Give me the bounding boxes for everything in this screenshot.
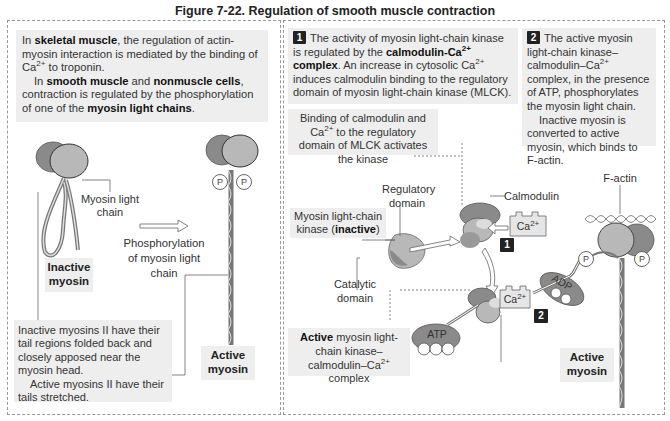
phosphate-icon: P xyxy=(212,174,228,190)
calcium-label-bottom: Ca2+ xyxy=(501,293,529,306)
f-actin-label: F-actin xyxy=(600,172,640,185)
active-mlck-complex-icon xyxy=(468,288,503,323)
active-complex-label: Active myosin light-chain kinase–calmodu… xyxy=(288,328,410,376)
binding-note-box: Binding of calmodulin and Ca2+ to the re… xyxy=(288,109,438,155)
f-actin-icon xyxy=(585,216,656,223)
myosin-light-chain-label: Myosin light chain xyxy=(80,193,140,219)
catalytic-domain-label: Catalytic domain xyxy=(328,277,382,305)
phosphorylation-label: Phosphorylation of myosin light chain xyxy=(118,236,210,281)
mlck-inactive-icon xyxy=(389,234,425,269)
phosphate-icon: P xyxy=(578,251,594,267)
phosphate-icon: P xyxy=(236,174,252,190)
calmodulin-label: Calmodulin xyxy=(504,190,564,203)
active-myosin-label-right: Active myosin xyxy=(560,348,614,382)
step2-text-box: 2The active myosin light-chain kinase–ca… xyxy=(522,28,656,146)
calcium-label-top: Ca2+ xyxy=(512,220,544,233)
step2-marker: 2 xyxy=(534,309,548,323)
atp-label: ATP xyxy=(424,328,450,341)
inactive-myosin-label: Inactive myosin xyxy=(45,258,93,292)
active-myosin-label-left: Active myosin xyxy=(201,346,255,380)
phosphorylation-arrow-icon xyxy=(140,220,188,232)
active-myosin-icon xyxy=(206,135,258,345)
step1-badge: 1 xyxy=(293,31,306,44)
step2-badge: 2 xyxy=(527,31,540,44)
phosphate-icon: P xyxy=(634,251,650,267)
step1-marker: 1 xyxy=(500,238,514,252)
regulatory-domain-label: Regulatory domain xyxy=(382,182,432,210)
step1-text-box: 1The activity of myosin light-chain kina… xyxy=(288,28,518,104)
mlck-inactive-label: Myosin light-chain kinase (inactive) xyxy=(290,208,386,238)
inactive-active-note: Inactive myosins II have their tail regi… xyxy=(14,320,172,402)
